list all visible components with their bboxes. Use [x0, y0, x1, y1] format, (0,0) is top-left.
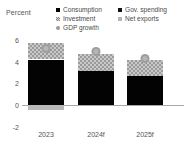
bar-group[interactable]	[28, 0, 64, 149]
bar-segment-net-exports[interactable]	[28, 105, 64, 110]
chart-figure: Percent Consumption Gov. spending Invest…	[0, 0, 187, 149]
gdp-growth-marker-icon	[42, 44, 51, 53]
plot-area: 20232024f2025f	[0, 0, 187, 149]
bar-segment-consumption[interactable]	[28, 60, 64, 106]
bar-group[interactable]	[78, 0, 114, 149]
gdp-growth-marker-icon	[141, 54, 150, 63]
bar-group[interactable]	[127, 0, 163, 149]
bar-segment-consumption[interactable]	[127, 76, 163, 105]
bar-segment-consumption[interactable]	[78, 71, 114, 105]
gdp-growth-marker-icon	[92, 47, 101, 56]
